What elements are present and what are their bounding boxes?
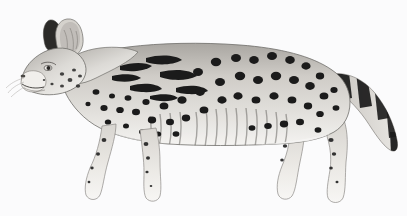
muzzle-shape — [21, 71, 46, 92]
serval-illustration — [0, 0, 407, 216]
illustration-figure: serval — [0, 0, 407, 216]
eye-pupil — [47, 66, 51, 70]
nose — [21, 74, 26, 77]
